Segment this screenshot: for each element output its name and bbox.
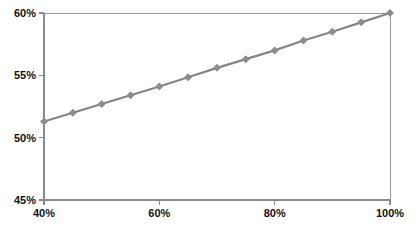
x-tick-label-60: 60% [148, 207, 170, 219]
y-tick-label-45: 45% [14, 194, 36, 206]
y-tick-label-50: 50% [14, 132, 36, 144]
y-tick-label-60: 60% [14, 7, 36, 19]
chart-background [0, 0, 419, 238]
x-tick-label-100: 100% [376, 207, 404, 219]
x-tick-label-40: 40% [33, 207, 55, 219]
x-tick-label-80: 80% [264, 207, 286, 219]
line-chart: 60% 55% 50% 45% 40% 60% 80% 100% [0, 0, 419, 238]
y-tick-label-55: 55% [14, 69, 36, 81]
chart-container: 60% 55% 50% 45% 40% 60% 80% 100% [0, 0, 419, 238]
